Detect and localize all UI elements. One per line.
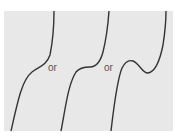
separator-or-2: or: [104, 63, 113, 73]
separator-or-1: or: [48, 63, 57, 73]
curve-stationary-inflection: [61, 11, 109, 131]
curve-local-max-min: [111, 11, 166, 131]
curves-svg: [0, 0, 175, 136]
